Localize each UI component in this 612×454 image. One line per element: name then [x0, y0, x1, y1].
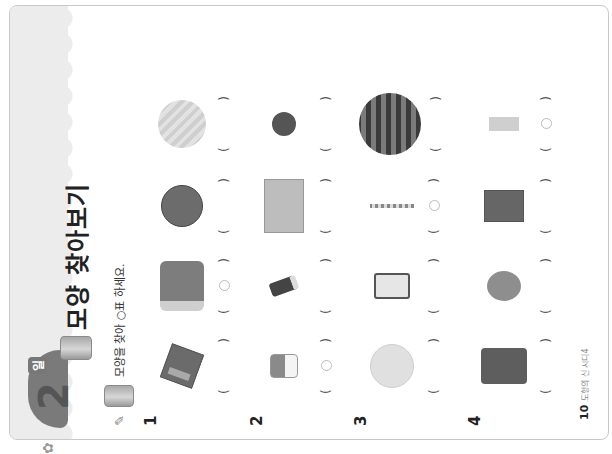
instruction-text: 모양을 찾아 ○표 하세요.: [111, 264, 127, 378]
item-eraser: (): [254, 246, 334, 326]
answer-blank[interactable]: (): [538, 166, 554, 246]
cylinder-container-image: [270, 354, 298, 378]
answer-blank[interactable]: (): [428, 84, 444, 164]
answer-blank[interactable]: (): [216, 326, 232, 406]
answer-blank[interactable]: (): [538, 84, 554, 164]
day-suffix: 일: [28, 357, 47, 374]
smartphone-image: [374, 273, 410, 299]
answer-blank[interactable]: (): [538, 326, 554, 406]
answer-blank[interactable]: (): [216, 166, 232, 246]
melon-image: [158, 100, 206, 148]
instruction-row: ✎ 모양을 찾아 ○표 하세요.: [104, 264, 134, 427]
balloon-image: [487, 271, 521, 301]
item-cylinder-container: (): [254, 326, 334, 406]
item-calculator: (): [474, 326, 554, 406]
item-balloon: (): [474, 246, 554, 326]
answer-blank[interactable]: (): [318, 84, 334, 164]
circle-mark: [219, 201, 230, 212]
item-ball: (): [254, 84, 334, 164]
eraser-image: [268, 275, 299, 298]
page-title-row: 모양 찾아보기: [58, 183, 93, 360]
ball-image: [272, 112, 296, 136]
item-watermelon: (): [356, 84, 444, 164]
circle-mark: [321, 361, 332, 372]
circle-mark: [541, 281, 552, 292]
volleyball-image: [370, 344, 414, 388]
circle-mark: [219, 119, 230, 130]
question-number: 3: [352, 416, 370, 426]
mascot-icon: ✿: [40, 442, 56, 454]
cylinder-icon: [104, 385, 134, 407]
item-volleyball: (): [362, 326, 442, 406]
answer-blank[interactable]: (): [216, 246, 232, 326]
item-straw: (): [362, 166, 442, 246]
gift-box-image: [160, 343, 204, 388]
answer-blank[interactable]: (): [318, 246, 334, 326]
circle-mark: [321, 201, 332, 212]
circle-mark: [321, 119, 332, 130]
item-cardboard-box: (): [254, 166, 334, 246]
calculator-image: [481, 348, 527, 384]
circle-mark: [431, 119, 442, 130]
item-drum: (): [152, 246, 232, 326]
day-number: 2: [34, 382, 74, 410]
answer-blank[interactable]: (): [216, 84, 232, 164]
cardboard-box-image: [264, 179, 304, 233]
worksheet-page: 2 일 ✿ 모양 찾아보기 ✎ 모양을 찾아 ○표 하세요. 1 () () (…: [0, 0, 612, 454]
circle-mark: [541, 119, 552, 130]
basketball-image: [161, 185, 203, 227]
cylinder-icon: [60, 336, 92, 360]
item-smartphone: (): [362, 246, 442, 326]
circle-mark: [429, 281, 440, 292]
tape-roll-image: [489, 117, 519, 131]
circle-mark: [321, 281, 332, 292]
pencil-icon: ✎: [112, 415, 127, 426]
answer-blank[interactable]: (): [538, 246, 554, 326]
answer-blank[interactable]: (): [426, 326, 442, 406]
circle-mark: [541, 361, 552, 372]
question-number: 2: [248, 416, 266, 426]
question-4: 4 () () () (): [466, 6, 576, 426]
item-book: (): [474, 166, 554, 246]
circle-mark: [219, 361, 230, 372]
book-title: 도형의 신 시디4: [581, 349, 590, 401]
question-number: 1: [142, 416, 160, 426]
question-3: 3 () () () (): [352, 6, 472, 426]
book-image: [484, 190, 524, 222]
drum-image: [160, 261, 204, 311]
question-number: 4: [466, 416, 484, 426]
answer-blank[interactable]: (): [426, 166, 442, 246]
question-2: 2 () () () (): [248, 6, 358, 426]
answer-blank[interactable]: (): [318, 166, 334, 246]
page-title: 모양 찾아보기: [58, 183, 93, 330]
page-footer: 10도형의 신 시디4: [578, 349, 591, 421]
day-badge: 2 일: [22, 362, 74, 432]
answer-blank[interactable]: (): [426, 246, 442, 326]
item-tape-roll: (): [474, 84, 554, 164]
circle-mark: [429, 201, 440, 212]
circle-mark: [541, 201, 552, 212]
circle-mark: [219, 281, 230, 292]
question-1: 1 () () () (): [142, 6, 252, 426]
circle-mark: [429, 361, 440, 372]
page-number: 10: [578, 405, 591, 420]
item-melon: (): [152, 84, 232, 164]
watermelon-image: [359, 93, 421, 155]
item-gift-box: (): [152, 326, 232, 406]
item-basketball: (): [152, 166, 232, 246]
answer-blank[interactable]: (): [318, 326, 334, 406]
straw-image: [370, 204, 414, 208]
